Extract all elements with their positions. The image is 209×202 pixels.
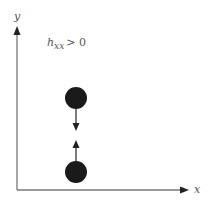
x-axis-label: x	[194, 183, 201, 196]
arrow-up-icon	[73, 140, 80, 148]
lower-particle	[65, 161, 87, 183]
y-axis-label: y	[13, 10, 21, 23]
arrow-down-icon	[73, 123, 80, 131]
x-axis-arrowhead-icon	[180, 187, 189, 194]
diagram-canvas: y x hxx> 0	[0, 0, 209, 202]
condition-label: hxx> 0	[47, 36, 86, 51]
y-axis-arrowhead-icon	[14, 26, 21, 35]
upper-particle	[65, 87, 87, 109]
